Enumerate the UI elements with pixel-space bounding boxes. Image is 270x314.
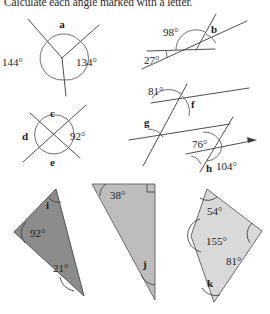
- figure-b: 98° b 27°: [142, 14, 247, 69]
- figure-fgh-line-parallel-top: [151, 88, 249, 103]
- figure-i-label-92: 92°: [30, 227, 45, 239]
- figure-k: 54° 155° 81° k: [188, 189, 262, 302]
- figure-cde: c d 92° e: [22, 105, 86, 168]
- figure-fgh-label-81: 81°: [148, 85, 163, 97]
- figure-k-label-k: k: [207, 277, 214, 289]
- figure-b-label-27: 27°: [144, 54, 159, 66]
- worksheet-page: Calculate each angle marked with a lette…: [0, 0, 270, 314]
- figure-a-arc-a: [46, 34, 79, 43]
- figure-fgh-arrowhead: [247, 137, 256, 143]
- figure-cde-label-92: 92°: [70, 130, 85, 142]
- figure-fgh-arc-h: [191, 156, 201, 164]
- figure-j-label-j: j: [142, 258, 147, 270]
- figure-a-label-144: 144°: [2, 56, 23, 68]
- figure-fgh-label-h: h: [206, 162, 212, 174]
- figure-j-triangle: [92, 184, 155, 300]
- figure-cde-label-d: d: [22, 130, 28, 142]
- figure-cde-label-e: e: [50, 156, 55, 168]
- figure-fgh-arc-f: [182, 96, 189, 116]
- figure-i: i 92° 21°: [14, 189, 84, 296]
- figure-a-ray-down: [62, 58, 66, 96]
- figure-fgh-label-g: g: [144, 116, 150, 128]
- diagram-canvas: a 144° 134° 98° b 27°: [0, 0, 270, 314]
- figure-k-label-54: 54°: [207, 205, 222, 217]
- figure-a-ray-upleft: [28, 19, 62, 58]
- figure-fgh-label-f: f: [191, 98, 195, 110]
- figure-i-label-i: i: [46, 199, 49, 211]
- figure-fgh-label-76: 76°: [192, 138, 207, 150]
- figure-i-label-21: 21°: [53, 262, 68, 274]
- figure-j: 38° j: [92, 184, 155, 300]
- figure-cde-label-c: c: [50, 107, 55, 119]
- figure-fgh: 81° f g 76° h 104°: [129, 84, 256, 174]
- figure-a-label-134: 134°: [76, 56, 97, 68]
- figure-b-label-98: 98°: [163, 26, 178, 38]
- figure-b-label-b: b: [211, 23, 217, 35]
- figure-a-arc-144: [40, 43, 64, 80]
- figure-b-arc-b: [206, 34, 216, 43]
- figure-j-label-38: 38°: [110, 189, 125, 201]
- figure-b-arc-27: [166, 51, 167, 58]
- figure-cde-arc-e: [42, 150, 66, 154]
- figure-a: a 144° 134°: [2, 18, 99, 96]
- figure-k-label-155: 155°: [206, 235, 227, 247]
- figure-a-label-a: a: [59, 18, 65, 30]
- figure-k-label-81: 81°: [226, 255, 241, 267]
- figure-fgh-label-104: 104°: [216, 160, 237, 172]
